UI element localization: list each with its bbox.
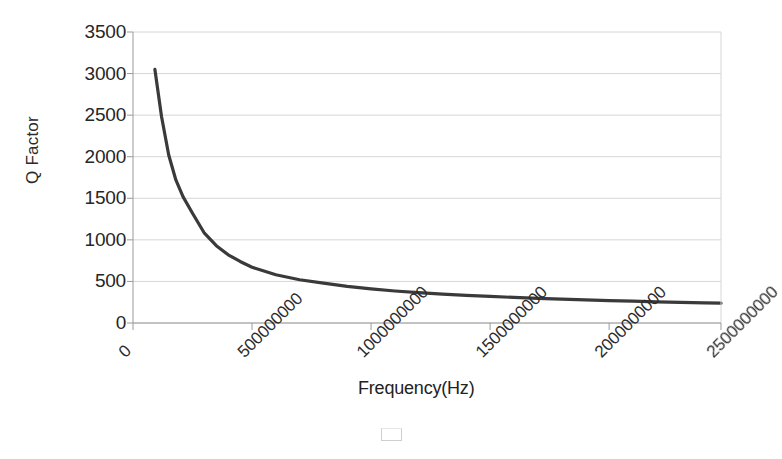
x-tick-label: 0 [115, 341, 136, 362]
x-axis-title: Frequency(Hz) [358, 378, 474, 399]
x-tick-label: 1000000000 [353, 282, 433, 362]
x-tick-label: 1500000000 [472, 282, 552, 362]
x-tick-label: 500000000 [234, 289, 307, 362]
x-tick-label: 2000000000 [591, 282, 671, 362]
x-tick-label: 2500000000 [703, 282, 782, 362]
scan-artifact-box [381, 428, 402, 441]
